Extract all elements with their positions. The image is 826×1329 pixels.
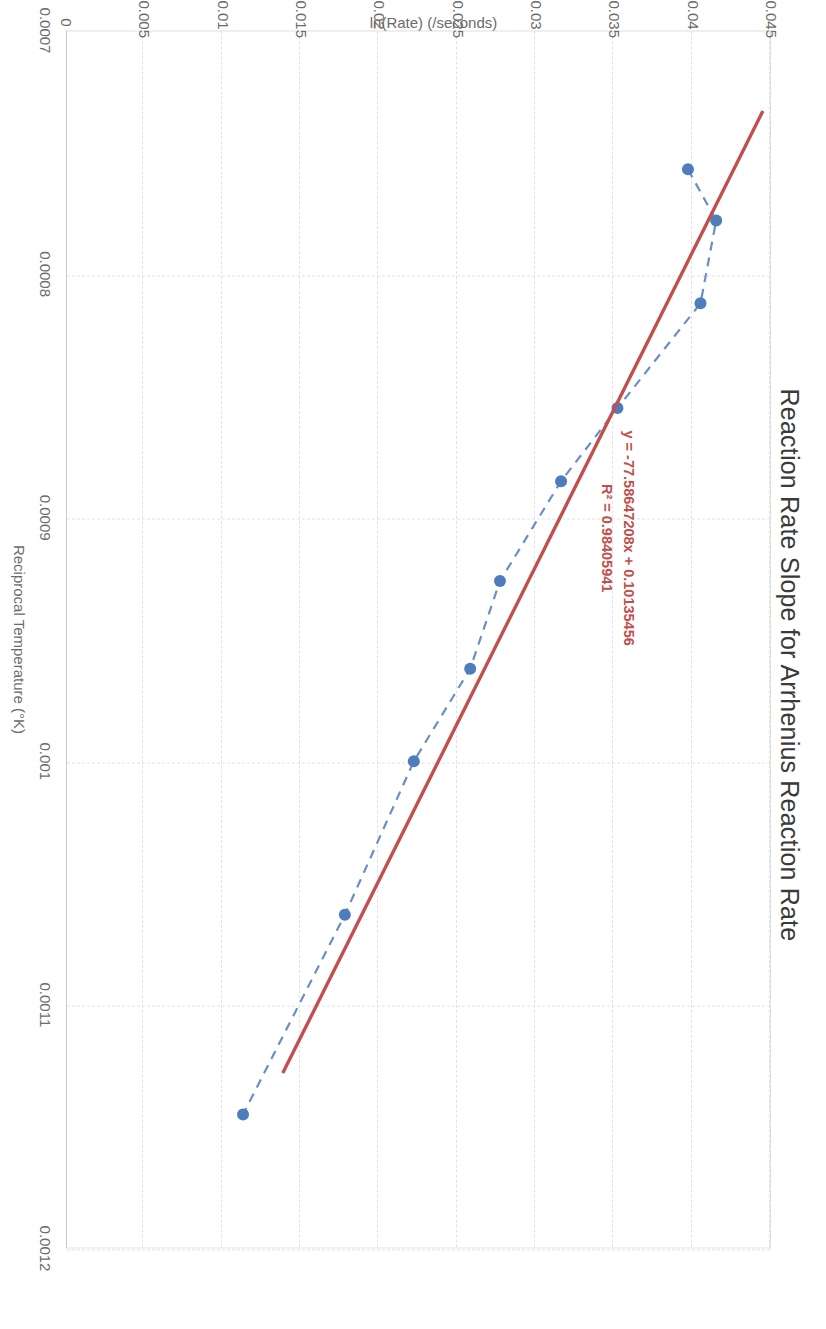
y-tick-label: 0.03 (528, 0, 545, 26)
x-tick-label: 0.0011 (37, 982, 54, 1027)
rotated-page-stage: Reaction Rate Slope for Arrhenius Reacti… (0, 0, 826, 1329)
y-axis-title: ln(Rate) (/seconds) (334, 14, 534, 31)
x-axis-title: Reciprocal Temperature (°K) (11, 30, 28, 1248)
data-point-marker (682, 163, 694, 175)
y-tick-label: 0.04 (684, 0, 701, 26)
data-point-marker (494, 575, 506, 587)
y-tick-label: 0.025 (449, 0, 466, 26)
series-line (243, 169, 716, 1114)
trendline-annotation: y = -77.58647208x + 0.10135456 R² = 0.98… (595, 430, 640, 645)
data-point-marker (555, 475, 567, 487)
x-tick-label: 0.0012 (37, 1225, 54, 1271)
x-tick-label: 0.0007 (37, 7, 54, 53)
data-point-marker (695, 297, 707, 309)
chart-canvas: Reaction Rate Slope for Arrhenius Reacti… (0, 0, 826, 1329)
y-tick-label: 0.02 (371, 0, 388, 26)
x-tick-label: 0.001 (37, 742, 54, 780)
y-tick-label: 0.035 (606, 0, 623, 26)
y-tick-label: 0.045 (763, 0, 780, 26)
data-point-marker (408, 755, 420, 767)
x-tick-label: 0.0009 (37, 494, 54, 540)
trendline-r2-text: R² = 0.98405941 (595, 430, 617, 645)
chart-title: Reaction Rate Slope for Arrhenius Reacti… (775, 0, 804, 1329)
data-point-marker (339, 908, 351, 920)
data-point-marker (464, 662, 476, 674)
trendline-equation-text: y = -77.58647208x + 0.10135456 (618, 430, 640, 645)
trendline (283, 110, 763, 1072)
x-tick-label: 0.0008 (37, 251, 54, 297)
y-tick-label: 0.01 (214, 0, 231, 26)
x-gridline (67, 1249, 770, 1250)
y-tick-label: 0 (58, 0, 75, 26)
series-layer (66, 30, 771, 1248)
y-tick-label: 0.005 (136, 0, 153, 26)
y-tick-label: 0.015 (293, 0, 310, 26)
data-point-marker (237, 1108, 249, 1120)
